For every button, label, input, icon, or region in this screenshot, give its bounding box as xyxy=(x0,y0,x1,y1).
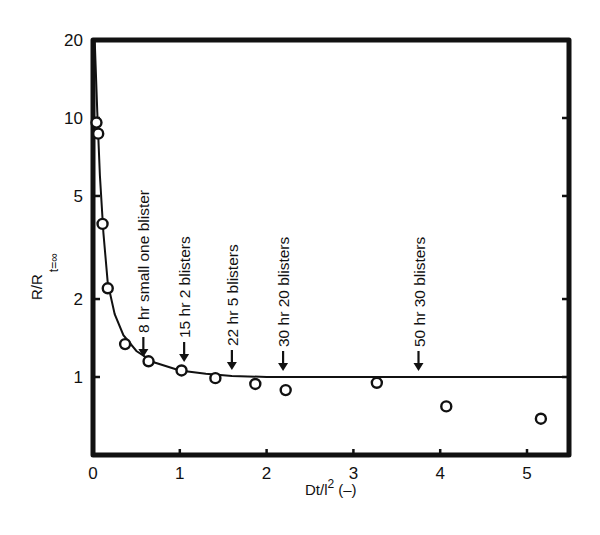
arrow-head-icon xyxy=(278,363,288,371)
annotation-label: 8 hr small one blister xyxy=(135,190,152,333)
y-tick-label: 5 xyxy=(74,187,83,206)
annotation: 22 hr 5 blisters xyxy=(224,244,241,370)
x-tick-label: 5 xyxy=(522,464,531,483)
annotation-label: 15 hr 2 blisters xyxy=(176,236,193,338)
annotation: 15 hr 2 blisters xyxy=(176,236,193,362)
data-point xyxy=(103,283,113,293)
annotation-label: 22 hr 5 blisters xyxy=(224,244,241,346)
plot-border xyxy=(93,40,569,455)
annotations: 8 hr small one blister15 hr 2 blisters22… xyxy=(135,190,427,371)
y-axis-title: R/Rt=∞ xyxy=(28,253,61,300)
y-tick-label: 1 xyxy=(74,368,83,387)
x-tick-label: 4 xyxy=(435,464,444,483)
x-tick-label: 2 xyxy=(262,464,271,483)
arrow-head-icon xyxy=(227,362,237,370)
annotation-label: 30 hr 20 blisters xyxy=(275,236,292,347)
data-point xyxy=(372,378,382,388)
data-point xyxy=(536,414,546,424)
data-point xyxy=(210,373,220,383)
data-point xyxy=(98,219,108,229)
x-axis-title: Dt/l2(–) xyxy=(305,477,357,498)
arrow-head-icon xyxy=(179,354,189,362)
y-tick-label: 10 xyxy=(64,109,83,128)
data-point xyxy=(91,118,101,128)
plot-frame xyxy=(93,40,569,455)
annotation-label: 50 hr 30 blisters xyxy=(411,236,428,347)
chart: 0123451251020 8 hr small one blister15 h… xyxy=(0,0,600,535)
data-point xyxy=(144,356,154,366)
annotation: 30 hr 20 blisters xyxy=(275,236,292,371)
annotation: 50 hr 30 blisters xyxy=(411,236,428,371)
data-point xyxy=(120,339,130,349)
x-tick-label: 0 xyxy=(88,464,97,483)
y-tick-label: 2 xyxy=(74,290,83,309)
data-point xyxy=(177,365,187,375)
annotation: 8 hr small one blister xyxy=(135,190,152,357)
arrow-head-icon xyxy=(414,363,424,371)
data-point xyxy=(93,129,103,139)
data-point xyxy=(441,401,451,411)
fit-line xyxy=(95,40,571,377)
svg-text:R/Rt=∞: R/Rt=∞ xyxy=(28,253,61,300)
y-tick-label: 20 xyxy=(64,31,83,50)
x-tick-label: 1 xyxy=(175,464,184,483)
fitted-curve xyxy=(95,40,571,377)
data-point xyxy=(281,385,291,395)
data-point xyxy=(250,379,260,389)
